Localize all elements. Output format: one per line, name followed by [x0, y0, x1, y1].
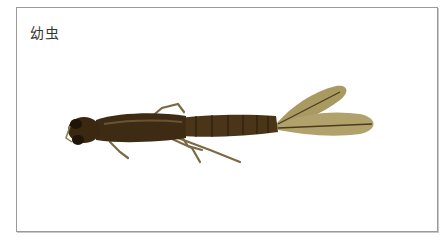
larva-photo [0, 0, 447, 241]
head [66, 117, 100, 145]
caudal-gills [276, 86, 374, 136]
abdomen [180, 115, 278, 137]
thorax [96, 113, 186, 142]
